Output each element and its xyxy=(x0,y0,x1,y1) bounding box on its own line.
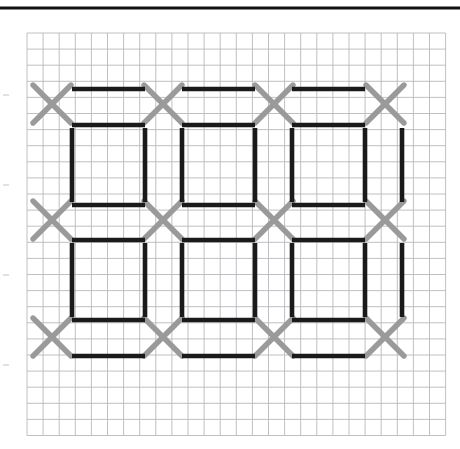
figure-root xyxy=(0,0,460,449)
figure-canvas xyxy=(0,0,460,449)
